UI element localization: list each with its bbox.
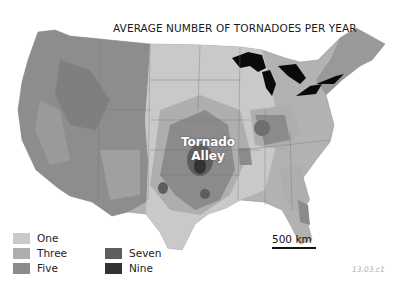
map-title: AVERAGE NUMBER OF TORNADOES PER YEAR (113, 22, 357, 34)
legend-swatch (13, 233, 30, 244)
legend-swatch (105, 263, 122, 274)
scale-bar (272, 247, 316, 249)
legend-item-nine: Nine (105, 262, 153, 274)
legend-item-three: Three (13, 247, 67, 259)
legend-item-five: Five (13, 262, 58, 274)
legend-item-one: One (13, 232, 58, 244)
legend-item-seven: Seven (105, 247, 161, 259)
legend-swatch (13, 263, 30, 274)
legend-swatch (105, 248, 122, 259)
legend-swatch (13, 248, 30, 259)
figure-code: 13.03.c1 (352, 265, 385, 274)
tornado-alley-label: Tornado Alley (178, 135, 238, 163)
scale-label: 500 km (272, 233, 312, 245)
